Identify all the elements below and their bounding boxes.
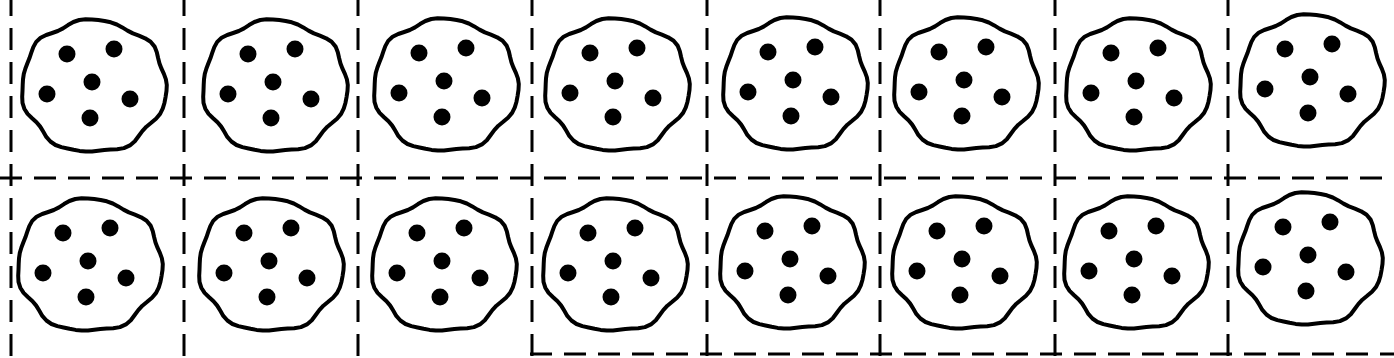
cookie-4 (545, 18, 690, 150)
chocolate-chip-dot (740, 84, 757, 101)
chocolate-chip-dot (782, 251, 799, 268)
cookie-7 (1066, 18, 1211, 150)
chocolate-chip-dot (911, 84, 928, 101)
chocolate-chip-dot (629, 40, 646, 57)
cookie-worksheet (0, 0, 1394, 358)
chocolate-chip-dot (582, 45, 599, 62)
chocolate-chip-dot (976, 218, 993, 235)
cookie-3 (374, 18, 519, 150)
chocolate-chip-dot (804, 218, 821, 235)
chocolate-chip-dot (122, 91, 139, 108)
chocolate-chip-dot (807, 39, 824, 56)
chocolate-chip-dot (458, 40, 475, 57)
chocolate-chip-dot (106, 41, 123, 58)
chocolate-chip-dot (1126, 109, 1143, 126)
chocolate-chip-dot (1298, 283, 1315, 300)
chocolate-chip-dot (59, 46, 76, 63)
chocolate-chip-dot (261, 253, 278, 270)
cookie-6 (894, 17, 1039, 149)
chocolate-chip-dot (929, 223, 946, 240)
chocolate-chip-dot (472, 270, 489, 287)
cookie-11 (372, 198, 517, 330)
chocolate-chip-dot (389, 265, 406, 282)
chocolate-chip-dot (283, 220, 300, 237)
chocolate-chip-dot (1300, 105, 1317, 122)
chocolate-chip-dot (436, 73, 453, 90)
chocolate-chip-dot (409, 225, 426, 242)
chocolate-chip-dot (432, 289, 449, 306)
chocolate-chip-dot (1083, 85, 1100, 102)
chocolate-chip-dot (605, 109, 622, 126)
chocolate-chip-dot (994, 89, 1011, 106)
chocolate-chip-dot (603, 289, 620, 306)
chocolate-chip-dot (82, 110, 99, 127)
chocolate-chip-dot (562, 85, 579, 102)
chocolate-chip-dot (954, 251, 971, 268)
chocolate-chip-dot (627, 220, 644, 237)
chocolate-chip-dot (956, 72, 973, 89)
chocolate-chip-dot (1166, 90, 1183, 107)
chocolate-chip-dot (1150, 40, 1167, 57)
chocolate-chip-dot (1148, 218, 1165, 235)
cookie-12 (543, 198, 688, 330)
chocolate-chip-dot (645, 90, 662, 107)
chocolate-chip-dot (605, 253, 622, 270)
chocolate-chip-dot (411, 45, 428, 62)
chocolate-chip-dot (909, 263, 926, 280)
chocolate-chip-dot (1164, 268, 1181, 285)
chocolate-chip-dot (216, 265, 233, 282)
chocolate-chip-dot (1275, 219, 1292, 236)
chocolate-chip-dot (757, 223, 774, 240)
chocolate-chip-dot (823, 89, 840, 106)
chocolate-chip-dot (1103, 45, 1120, 62)
cookie-1 (22, 19, 167, 151)
chocolate-chip-dot (118, 270, 135, 287)
chocolate-chip-dot (978, 39, 995, 56)
cookie-8 (1240, 14, 1385, 146)
chocolate-chip-dot (607, 73, 624, 90)
chocolate-chip-dot (1126, 251, 1143, 268)
cut-lines (0, 0, 1394, 358)
chocolate-chip-dot (780, 287, 797, 304)
chocolate-chip-dot (434, 109, 451, 126)
cookie-10 (199, 198, 344, 330)
chocolate-chip-dot (259, 289, 276, 306)
cookie-13 (720, 196, 865, 328)
chocolate-chip-dot (783, 108, 800, 125)
chocolate-chip-dot (1128, 73, 1145, 90)
chocolate-chip-dot (1101, 223, 1118, 240)
chocolate-chip-dot (992, 268, 1009, 285)
chocolate-chip-dot (1322, 214, 1339, 231)
chocolate-chip-dot (737, 263, 754, 280)
cookie-16 (1238, 192, 1383, 324)
chocolate-chip-dot (55, 225, 72, 242)
chocolate-chip-dot (35, 265, 52, 282)
chocolate-chip-dot (303, 91, 320, 108)
chocolate-chip-dot (102, 220, 119, 237)
chocolate-chip-dot (643, 270, 660, 287)
chocolate-chip-dot (1302, 69, 1319, 86)
chocolate-chip-dot (785, 72, 802, 89)
chocolate-chip-dot (240, 46, 257, 63)
chocolate-chip-dot (474, 90, 491, 107)
chocolate-chip-dot (1300, 247, 1317, 264)
chocolate-chip-dot (84, 74, 101, 91)
chocolate-chip-dot (820, 268, 837, 285)
cookie-grid (18, 14, 1385, 330)
chocolate-chip-dot (1124, 287, 1141, 304)
chocolate-chip-dot (78, 289, 95, 306)
chocolate-chip-dot (265, 74, 282, 91)
chocolate-chip-dot (1277, 41, 1294, 58)
chocolate-chip-dot (236, 225, 253, 242)
chocolate-chip-dot (1324, 36, 1341, 53)
chocolate-chip-dot (287, 41, 304, 58)
chocolate-chip-dot (952, 287, 969, 304)
chocolate-chip-dot (1081, 263, 1098, 280)
chocolate-chip-dot (580, 225, 597, 242)
chocolate-chip-dot (391, 85, 408, 102)
chocolate-chip-dot (263, 110, 280, 127)
chocolate-chip-dot (434, 253, 451, 270)
cookie-14 (892, 196, 1037, 328)
chocolate-chip-dot (1257, 81, 1274, 98)
chocolate-chip-dot (456, 220, 473, 237)
